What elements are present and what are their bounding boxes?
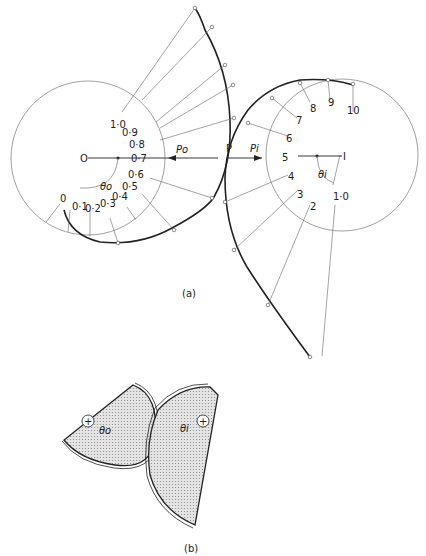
svg-text:10: 10: [347, 105, 360, 116]
caption-a: (a): [182, 288, 196, 299]
svg-text:0·8: 0·8: [129, 139, 145, 150]
svg-text:4: 4: [288, 171, 294, 182]
svg-text:7: 7: [296, 115, 302, 126]
label-b-theta-o: θo: [99, 425, 111, 436]
svg-text:0·5: 0·5: [122, 181, 138, 192]
svg-text:5: 5: [282, 152, 288, 163]
svg-text:9: 9: [328, 97, 334, 108]
label-o: O: [80, 153, 88, 164]
svg-text:0·2: 0·2: [85, 203, 101, 214]
label-pi: Pi: [250, 143, 259, 154]
cam-diagram: O Po θo P Pi I θi 0 0·1 0·2 0·3 0·4 0·5 …: [0, 0, 426, 556]
svg-text:+: +: [199, 416, 207, 427]
label-p: P: [226, 143, 232, 154]
svg-text:0·6: 0·6: [128, 169, 144, 180]
left-scale-labels: 0 0·1 0·2 0·3 0·4 0·5 0·6 0·7 0·8 0·9 1·…: [60, 119, 147, 214]
right-base-circle: [266, 79, 418, 231]
svg-text:8: 8: [310, 103, 316, 114]
label-i: I: [343, 151, 346, 162]
right-cam-shape: [149, 387, 218, 525]
curve-nodes: [116, 6, 355, 359]
svg-text:1·0: 1·0: [110, 119, 126, 130]
right-rays: [225, 80, 353, 356]
svg-text:0: 0: [60, 193, 66, 204]
svg-text:0·7: 0·7: [131, 153, 147, 164]
label-theta-i: θi: [318, 169, 327, 180]
label-po: Po: [176, 144, 188, 155]
svg-text:2: 2: [310, 201, 316, 212]
caption-b: (b): [184, 543, 198, 554]
svg-text:0·4: 0·4: [112, 191, 128, 202]
svg-text:+: +: [84, 416, 92, 427]
po-arrow-icon: [168, 155, 176, 161]
svg-text:6: 6: [286, 133, 292, 144]
label-theta-o: θo: [100, 181, 112, 192]
right-scale-labels: 1·0 2 3 4 5 6 7 8 9 10: [282, 97, 360, 212]
pi-arrow-icon: [254, 155, 262, 161]
svg-text:1·0: 1·0: [333, 191, 349, 202]
svg-text:3: 3: [297, 189, 303, 200]
label-b-theta-i: θi: [180, 423, 189, 434]
